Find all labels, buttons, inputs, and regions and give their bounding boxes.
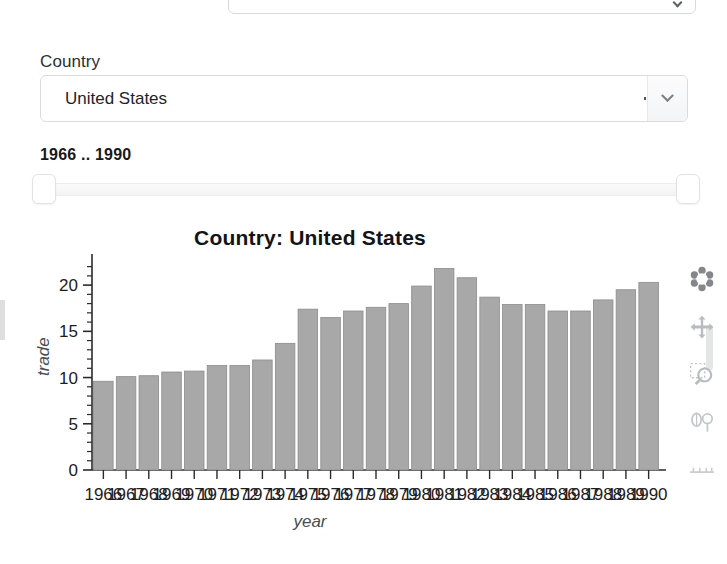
bar[interactable] [639, 282, 659, 470]
year-range-slider[interactable] [32, 174, 700, 204]
bar[interactable] [412, 286, 432, 470]
y-tick-label: 5 [69, 415, 78, 434]
bar[interactable] [344, 311, 364, 470]
bar[interactable] [275, 343, 295, 470]
y-tick-label: 10 [59, 369, 78, 388]
chart-svg[interactable]: 0510152019661967196819691970197119721973… [0, 216, 727, 564]
bar[interactable] [548, 311, 568, 470]
bar[interactable] [366, 307, 386, 470]
country-select-value: United States [41, 89, 167, 109]
axes-reset-icon[interactable] [679, 447, 725, 495]
left-scroll-sliver[interactable] [0, 300, 5, 340]
chart-toolbar[interactable] [679, 255, 725, 495]
bar[interactable] [571, 311, 591, 470]
bar[interactable] [207, 366, 227, 470]
x-tick-label: 1990 [630, 485, 668, 504]
y-tick-label: 0 [69, 461, 78, 480]
plotly-logo-icon[interactable] [679, 255, 725, 303]
country-label: Country [40, 52, 100, 72]
bar[interactable] [253, 360, 273, 470]
select-caret-mark [644, 97, 646, 100]
bar[interactable] [457, 278, 477, 470]
country-select-arrow[interactable] [647, 76, 687, 121]
bar[interactable] [434, 268, 454, 470]
bar[interactable] [480, 297, 500, 470]
bar[interactable] [503, 305, 523, 470]
bar[interactable] [139, 376, 159, 470]
bar[interactable] [593, 300, 613, 470]
zoom-box-icon[interactable] [679, 351, 725, 399]
y-tick-label: 20 [59, 276, 78, 295]
bar[interactable] [184, 371, 204, 470]
country-select[interactable]: United States [40, 75, 688, 122]
bar[interactable] [321, 317, 341, 470]
slider-handle-left[interactable] [32, 174, 56, 204]
chevron-down-icon [661, 89, 674, 102]
pan-icon[interactable] [679, 303, 725, 351]
bar[interactable] [389, 304, 409, 470]
bar[interactable] [230, 366, 250, 470]
bar[interactable] [616, 290, 636, 470]
year-range-label: 1966 .. 1990 [40, 146, 131, 164]
chevron-down-icon [673, 0, 683, 7]
bar[interactable] [298, 309, 318, 470]
slider-handle-right[interactable] [676, 174, 700, 204]
slider-track[interactable] [44, 183, 688, 196]
bar[interactable] [94, 381, 114, 470]
y-tick-label: 15 [59, 322, 78, 341]
chart-panel: Country: United States trade year 051015… [0, 216, 727, 564]
bar[interactable] [525, 305, 545, 470]
bar[interactable] [116, 377, 136, 470]
top-partial-select[interactable] [228, 0, 696, 14]
lasso-select-icon[interactable] [679, 399, 725, 447]
bar[interactable] [162, 372, 182, 470]
